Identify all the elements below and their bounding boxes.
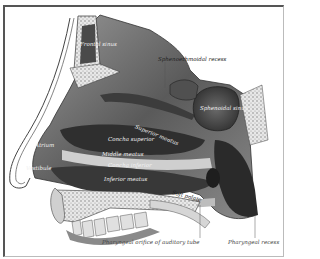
label-pharyngeal-recess: Pharyngeal recess bbox=[228, 240, 279, 246]
label-sphenoidal-sinus: Sphenoidal sinus bbox=[200, 106, 248, 112]
label-atrium: Atrium bbox=[35, 143, 54, 149]
label-concha-superior: Concha superior bbox=[108, 137, 154, 143]
label-vestibule: Vestibule bbox=[26, 166, 52, 172]
label-middle-meatus: Middle meatus bbox=[102, 152, 144, 158]
label-inferior-meatus: Inferior meatus bbox=[104, 177, 147, 183]
label-frontal-sinus: Frontal sinus bbox=[80, 42, 117, 48]
label-sphenoethmoidal-recess: Sphenoethmoidal recess bbox=[158, 57, 226, 63]
label-concha-inferior: Concha inferior bbox=[108, 163, 152, 169]
label-pharyngeal-orifice-auditory-tube: Pharyngeal orifice of auditory tube bbox=[102, 240, 200, 246]
